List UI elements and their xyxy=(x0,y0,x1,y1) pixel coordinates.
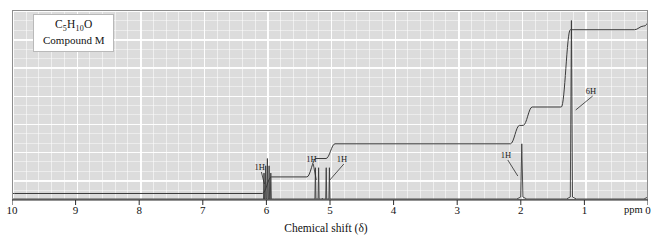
x-axis-tick-label: 0 xyxy=(645,204,651,216)
ppm-unit-label: ppm xyxy=(624,204,643,215)
x-axis-tick-label: 7 xyxy=(200,204,206,216)
integration-label: 1H xyxy=(254,162,264,172)
x-axis-tick-label: 10 xyxy=(7,204,18,216)
x-axis-tick-label: 5 xyxy=(327,204,333,216)
integration-label: 6H xyxy=(586,86,596,96)
x-axis-tick-label: 3 xyxy=(454,204,460,216)
x-axis-tick-label: 6 xyxy=(264,204,270,216)
x-axis-tick-label: 1 xyxy=(582,204,588,216)
x-axis-tick-label: 9 xyxy=(73,204,79,216)
integration-label: 1H xyxy=(306,154,316,164)
x-axis-title: Chemical shift (δ) xyxy=(0,222,652,234)
compound-name: Compound M xyxy=(43,34,104,47)
x-axis-tick-label: 4 xyxy=(391,204,397,216)
x-axis-tick-label: 2 xyxy=(518,204,524,216)
compound-label: C5H10O Compound M xyxy=(33,14,114,52)
molecular-formula: C5H10O xyxy=(43,18,104,34)
integration-label: 1H xyxy=(337,154,347,164)
integration-label: 1H xyxy=(501,150,511,160)
x-axis-tick-label: 8 xyxy=(136,204,142,216)
nmr-spectrum-figure: C5H10O Compound M ppm Chemical shift (δ)… xyxy=(0,0,652,244)
